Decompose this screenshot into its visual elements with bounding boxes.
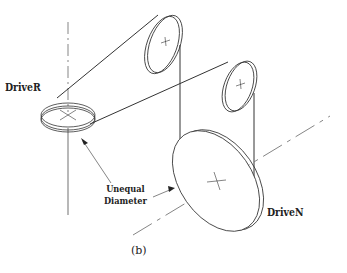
driven-pulley [154,113,281,247]
arrow-to-driver [83,141,111,183]
arrowhead-driver [81,138,88,145]
belt-driver-to-right [90,62,228,124]
idler-pulley-top [138,11,190,79]
arrowhead-driven [168,186,175,192]
belt-drive-diagram [0,0,347,273]
driver-pulley [41,103,95,132]
driver-label: DriveR [5,81,41,94]
unequal-diameter-label: Unequal Diameter [104,183,147,207]
driven-label: DriveN [267,206,304,219]
belt-driver-to-top [57,15,158,98]
idler-pulley-right [216,57,263,116]
unequal-line1: Unequal [104,183,147,195]
figure-caption: (b) [131,244,147,257]
unequal-line2: Diameter [104,195,147,207]
